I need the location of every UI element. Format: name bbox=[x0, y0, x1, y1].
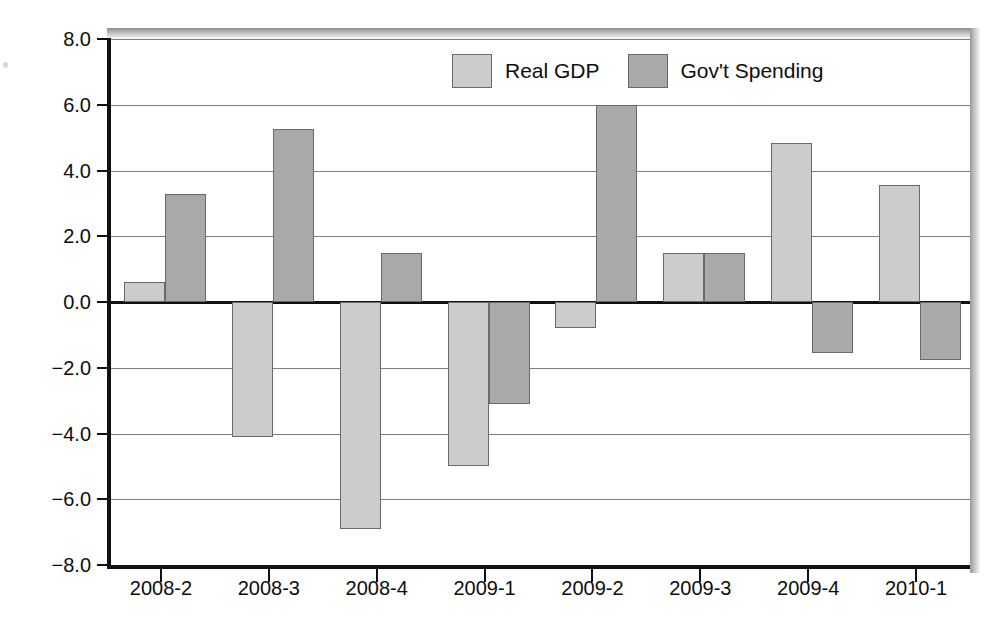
y-axis-tick bbox=[97, 367, 111, 369]
bar-2008-3-real-gdp[interactable] bbox=[232, 302, 273, 437]
bar-2009-1-real-gdp[interactable] bbox=[448, 302, 489, 466]
legend-item-govt-spending[interactable]: Gov't Spending bbox=[628, 54, 824, 88]
bar-2008-4-govt-spending[interactable] bbox=[381, 253, 422, 302]
legend-swatch-real-gdp bbox=[452, 54, 492, 88]
x-axis-label-2008-3: 2008-3 bbox=[238, 577, 300, 600]
y-axis-label: −2.0 bbox=[52, 356, 91, 379]
scan-speck bbox=[3, 62, 8, 68]
y-axis-tick bbox=[97, 235, 111, 237]
y-axis-label: −8.0 bbox=[52, 554, 91, 577]
bar-2009-2-govt-spending[interactable] bbox=[596, 105, 637, 302]
bar-2010-1-real-gdp[interactable] bbox=[879, 185, 920, 302]
plot-area: 8.06.04.02.00.0−2.0−4.0−6.0−8.0 bbox=[107, 39, 970, 565]
y-axis-label: 6.0 bbox=[63, 93, 91, 116]
bar-2009-2-real-gdp[interactable] bbox=[555, 302, 596, 328]
gridline bbox=[111, 171, 970, 172]
y-axis-label: 2.0 bbox=[63, 225, 91, 248]
chart-figure: 8.06.04.02.00.0−2.0−4.0−6.0−8.0 2008-220… bbox=[0, 0, 993, 631]
x-axis-label-2009-2: 2009-2 bbox=[561, 577, 623, 600]
gridline bbox=[111, 236, 970, 237]
y-axis-tick bbox=[97, 170, 111, 172]
bar-2008-2-real-gdp[interactable] bbox=[124, 282, 165, 302]
chart-legend: Real GDP Gov't Spending bbox=[452, 54, 823, 88]
plot-top-shadow bbox=[107, 28, 981, 39]
y-axis-label: −6.0 bbox=[52, 488, 91, 511]
legend-item-real-gdp[interactable]: Real GDP bbox=[452, 54, 600, 88]
y-axis-tick bbox=[97, 38, 111, 40]
x-axis-label-2010-1: 2010-1 bbox=[885, 577, 947, 600]
x-axis-label-2008-2: 2008-2 bbox=[130, 577, 192, 600]
bar-2009-3-govt-spending[interactable] bbox=[704, 253, 745, 302]
y-axis-tick bbox=[97, 433, 111, 435]
legend-label-govt-spending: Gov't Spending bbox=[681, 59, 824, 83]
y-axis-tick bbox=[97, 301, 111, 303]
gridline bbox=[111, 39, 970, 40]
y-axis-label: 0.0 bbox=[63, 291, 91, 314]
y-axis-label: 4.0 bbox=[63, 159, 91, 182]
plot-right-shadow bbox=[970, 28, 981, 573]
y-axis-tick bbox=[97, 104, 111, 106]
bar-2008-3-govt-spending[interactable] bbox=[273, 129, 314, 302]
x-axis-label-2008-4: 2008-4 bbox=[346, 577, 408, 600]
x-axis bbox=[107, 565, 970, 569]
legend-swatch-govt-spending bbox=[628, 54, 668, 88]
gridline bbox=[111, 105, 970, 106]
x-axis-label-2009-3: 2009-3 bbox=[669, 577, 731, 600]
x-axis-label-2009-1: 2009-1 bbox=[453, 577, 515, 600]
bar-2008-2-govt-spending[interactable] bbox=[165, 194, 206, 302]
x-axis-label-2009-4: 2009-4 bbox=[777, 577, 839, 600]
bar-2008-4-real-gdp[interactable] bbox=[340, 302, 381, 529]
gridline bbox=[111, 499, 970, 500]
y-axis-label: 8.0 bbox=[63, 28, 91, 51]
chart-title bbox=[0, 0, 993, 3]
plot-inner: 8.06.04.02.00.0−2.0−4.0−6.0−8.0 bbox=[111, 39, 970, 565]
bar-2009-4-govt-spending[interactable] bbox=[812, 302, 853, 353]
y-axis-tick bbox=[97, 498, 111, 500]
legend-label-real-gdp: Real GDP bbox=[505, 59, 600, 83]
bar-2009-3-real-gdp[interactable] bbox=[663, 253, 704, 302]
y-axis-label: −4.0 bbox=[52, 422, 91, 445]
bar-2010-1-govt-spending[interactable] bbox=[920, 302, 961, 360]
bar-2009-4-real-gdp[interactable] bbox=[771, 143, 812, 302]
bar-2009-1-govt-spending[interactable] bbox=[489, 302, 530, 404]
